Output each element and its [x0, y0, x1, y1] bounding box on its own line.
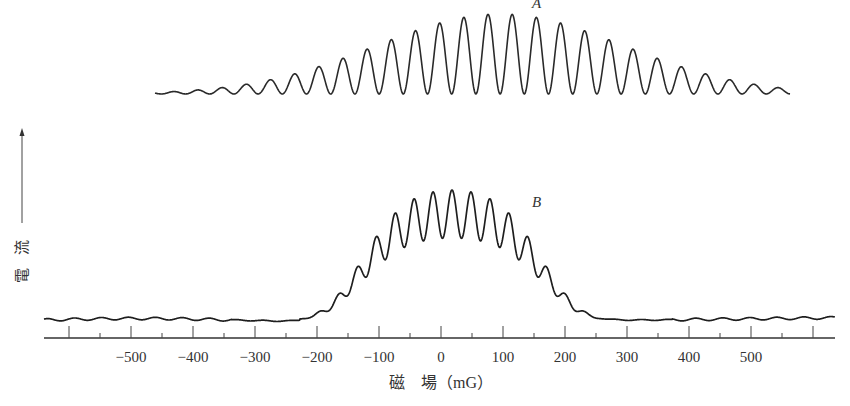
x-axis: −500−400−300−200−1000100200300400500 — [44, 326, 835, 365]
x-tick-label: −500 — [116, 349, 147, 365]
up-arrow-icon — [20, 128, 25, 136]
curve-b-label: B — [532, 194, 541, 210]
x-tick-label: 200 — [554, 349, 577, 365]
y-axis-char-2: 流 — [14, 240, 30, 255]
x-tick-labels: −500−400−300−200−1000100200300400500 — [116, 349, 763, 365]
y-axis-char-1: 電 — [14, 268, 30, 283]
curve-a-label: A — [531, 0, 542, 11]
x-tick-label: −400 — [178, 349, 209, 365]
x-tick-label: 400 — [678, 349, 701, 365]
major-ticks — [69, 326, 813, 338]
x-axis-title: 磁 場（mG） — [389, 374, 493, 391]
fringe-chart: A B −500−400−300−200−1000100200300400500… — [0, 0, 850, 406]
chart-canvas: A B −500−400−300−200−1000100200300400500… — [0, 0, 850, 406]
x-tick-label: 300 — [616, 349, 639, 365]
x-tick-label: −300 — [240, 349, 271, 365]
x-tick-label: −100 — [364, 349, 395, 365]
x-tick-label: 0 — [437, 349, 445, 365]
curve-a — [155, 14, 790, 94]
x-tick-label: −200 — [302, 349, 333, 365]
y-axis-title: 流 電 — [14, 128, 30, 283]
curve-b — [44, 190, 835, 322]
x-tick-label: 100 — [492, 349, 515, 365]
x-tick-label: 500 — [740, 349, 763, 365]
